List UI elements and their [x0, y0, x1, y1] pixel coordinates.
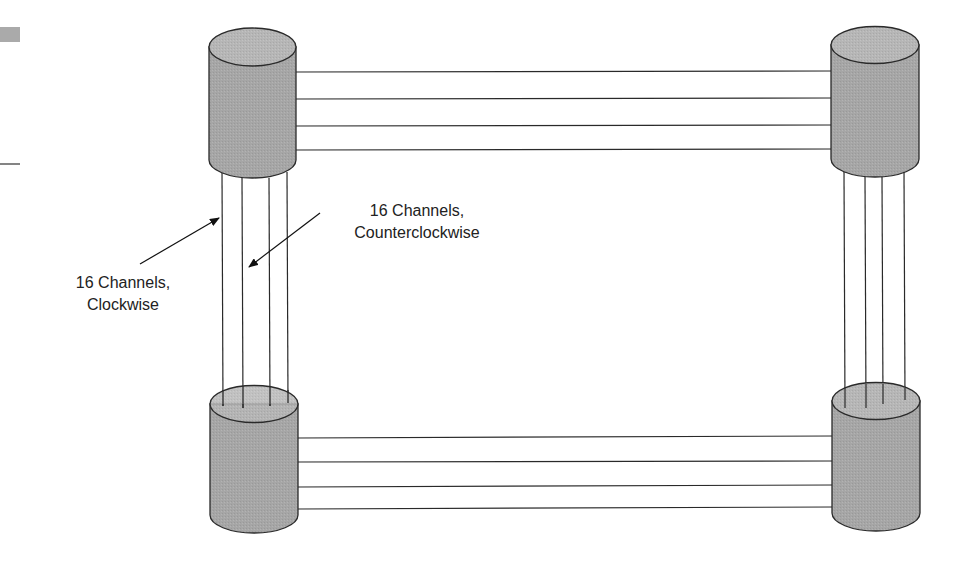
arrow-counterclockwise	[249, 213, 320, 267]
links-right	[844, 172, 905, 408]
links-into-bottom-nodes	[223, 384, 905, 408]
label-clockwise-line1: 16 Channels,	[48, 272, 198, 294]
links-top	[296, 71, 832, 150]
label-clockwise-line2: Clockwise	[48, 294, 198, 316]
label-clockwise: 16 Channels, Clockwise	[48, 272, 198, 316]
node-bottom-left	[210, 386, 298, 534]
label-counterclockwise-line1: 16 Channels,	[322, 200, 512, 222]
node-top-right	[831, 27, 919, 178]
label-counterclockwise: 16 Channels, Counterclockwise	[322, 200, 512, 244]
links-bottom	[298, 436, 833, 509]
arrow-clockwise	[140, 218, 219, 264]
links-left	[222, 172, 288, 408]
label-counterclockwise-line2: Counterclockwise	[322, 222, 512, 244]
node-top-left	[209, 28, 296, 178]
margin-marks	[0, 27, 20, 164]
